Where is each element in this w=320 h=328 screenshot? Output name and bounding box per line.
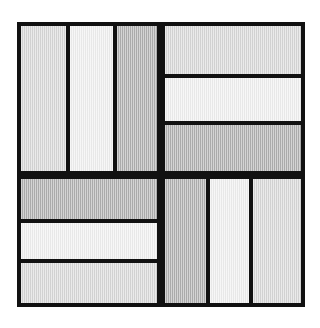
patch-top-right-bar-1 [165,26,301,74]
patch-top-left-bar-3 [117,26,157,171]
quadrant-top-left [17,22,161,175]
patch-top-right-bar-3 [165,125,301,171]
patch-bottom-left-bar-2 [21,223,157,259]
patch-bottom-left-bar-3 [21,263,157,303]
patch-top-left-bar-2 [70,26,113,171]
patch-bottom-right-bar-1 [165,179,206,303]
quadrant-top-right [161,22,305,175]
patch-bottom-right-bar-3 [253,179,301,303]
quadrant-bottom-left [17,175,161,307]
patch-top-right-bar-2 [165,78,301,121]
patch-bottom-right-bar-2 [210,179,249,303]
patch-bottom-left-bar-1 [21,179,157,219]
patch-top-left-bar-1 [21,26,66,171]
quadrant-bottom-right [161,175,305,307]
quilt-block-figure [0,0,320,328]
